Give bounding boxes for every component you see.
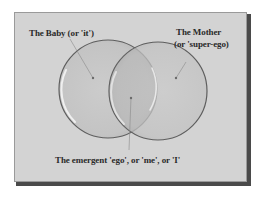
- ego-center-dot: [130, 97, 132, 99]
- ego-label: The emergent 'ego', or 'me', or 'I': [55, 155, 180, 165]
- baby-center-dot: [92, 77, 94, 79]
- mother-label: The Mother: [176, 27, 221, 37]
- mother-sublabel: (or 'super-ego): [174, 39, 229, 49]
- mother-center-dot: [175, 77, 177, 79]
- baby-label: The Baby (or 'it'): [29, 28, 94, 38]
